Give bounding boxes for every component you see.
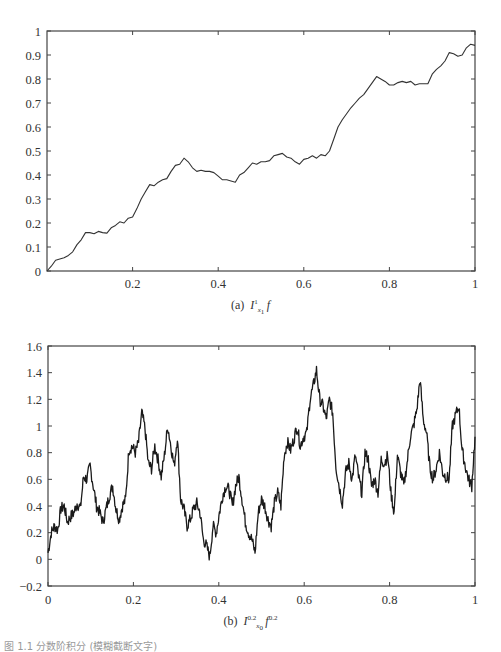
- y-tick-label: 0.5: [25, 145, 41, 159]
- y-tick-label: 0.6: [25, 121, 41, 135]
- x-tick-label: 0.8: [382, 593, 398, 607]
- y-tick-label: 0.1: [25, 241, 41, 255]
- x-tick-label: 1: [472, 277, 478, 291]
- x-tick-label: 0.6: [296, 593, 312, 607]
- data-series-line: [47, 44, 475, 271]
- y-tick-label: 0: [35, 265, 41, 279]
- y-tick-label: 0.4: [26, 500, 42, 514]
- y-tick-label: 1: [35, 25, 41, 39]
- x-tick-label: 0.4: [210, 277, 226, 291]
- y-tick-label: 0.2: [26, 526, 42, 540]
- x-tick-label: 0.2: [126, 593, 142, 607]
- chart-a-plot: 00.10.20.30.40.50.60.70.80.910.20.40.60.…: [0, 0, 501, 300]
- y-tick-label: 0.3: [25, 193, 41, 207]
- x-tick-label: 0.4: [211, 593, 227, 607]
- x-tick-label: 0: [45, 593, 51, 607]
- y-tick-label: 0.9: [25, 49, 41, 63]
- chart-a-fractional-integral-order-1: 00.10.20.30.40.50.60.70.80.910.20.40.60.…: [0, 0, 501, 330]
- chart-b-plot: −0.200.20.40.60.811.21.41.600.20.40.60.8…: [0, 330, 501, 615]
- chart-a-caption: (a) I1x1 f: [0, 298, 501, 317]
- chart-b-caption: (b) I0.2x0 f0.2: [0, 614, 501, 633]
- x-tick-label: 1: [472, 593, 478, 607]
- chart-a-caption-prefix: (a): [231, 298, 244, 312]
- y-tick-label: 0: [36, 553, 42, 567]
- x-tick-label: 0.2: [125, 277, 141, 291]
- plot-frame: [47, 31, 475, 271]
- y-tick-label: 0.4: [25, 169, 41, 183]
- chart-b-caption-prefix: (b): [224, 614, 238, 628]
- chart-a-caption-math: I1x1 f: [247, 298, 270, 312]
- x-tick-label: 0.8: [382, 277, 398, 291]
- y-tick-label: 1.2: [26, 393, 42, 407]
- data-series-line: [48, 366, 475, 560]
- y-tick-label: 1.4: [26, 366, 42, 380]
- y-tick-label: 1: [36, 420, 42, 434]
- figure-caption: 图 1.1 分数阶积分 (模糊截断文字): [0, 638, 501, 652]
- y-tick-label: 0.2: [25, 217, 41, 231]
- chart-b-fractional-integral-order-0.2: −0.200.20.40.60.811.21.41.600.20.40.60.8…: [0, 330, 501, 630]
- x-tick-label: 0.6: [296, 277, 312, 291]
- chart-b-caption-math: I0.2x0 f0.2: [241, 614, 278, 628]
- y-tick-label: −0.2: [19, 580, 42, 594]
- y-tick-label: 0.8: [26, 446, 42, 460]
- y-tick-label: 0.6: [26, 473, 42, 487]
- y-tick-label: 1.6: [26, 340, 42, 354]
- plot-frame: [48, 346, 475, 586]
- y-tick-label: 0.7: [25, 97, 41, 111]
- y-tick-label: 0.8: [25, 73, 41, 87]
